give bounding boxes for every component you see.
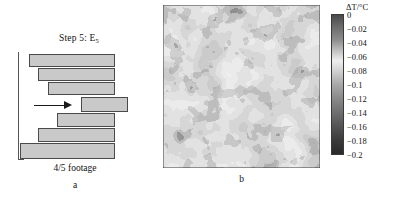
panel-b-heatmap [163, 5, 320, 168]
colorbar-tick: −0.1 [347, 81, 362, 90]
colorbar-tick: 0 [347, 11, 351, 20]
panel-a-footage-caption: 4/5 footage [0, 163, 150, 173]
panel-a-title-subscript: 5 [96, 37, 99, 44]
colorbar-tick: −0.12 [347, 95, 367, 104]
panel-a-letter-label: a [0, 180, 150, 190]
colorbar-tick-labels: 0 −0.02 −0.04 −0.06 −0.08 −0.1 −0.12 −0.… [347, 11, 393, 159]
staircase-bar [48, 82, 115, 95]
heatmap-image [163, 5, 320, 168]
colorbar-tick: −0.16 [347, 123, 367, 132]
staircase-bars-group [18, 52, 128, 160]
panel-a-excavation-diagram: Step 5: E5 4/5 footage a [0, 0, 158, 200]
axis-foot-tick [18, 159, 24, 160]
staircase-bar [57, 113, 115, 127]
colorbar-tick: −0.06 [347, 53, 367, 62]
arrow-shaft [34, 105, 66, 106]
arrow-head [64, 101, 72, 109]
heatmap-svg [163, 5, 320, 168]
colorbar-legend: ΔT/°C 0 −0.02 −0.04 −0.06 −0.08 −0.1 −0.… [331, 0, 393, 200]
staircase-bar [29, 54, 115, 67]
panel-a-title: Step 5: E5 [0, 33, 158, 44]
colorbar-tick: −0.08 [347, 67, 367, 76]
excavation-direction-arrow-icon [34, 101, 74, 110]
staircase-bar [20, 143, 115, 159]
panel-b-letter-label: b [163, 174, 320, 184]
vertical-axis-line [18, 52, 19, 160]
staircase-bar [38, 68, 115, 81]
colorbar-gradient [331, 14, 344, 155]
staircase-bar [38, 128, 115, 142]
colorbar-tick: −0.2 [347, 151, 362, 160]
colorbar-tick: −0.04 [347, 39, 367, 48]
staircase-bar-highlighted [81, 97, 128, 112]
colorbar-tick: −0.02 [347, 25, 367, 34]
panel-a-title-text: Step 5: E [59, 33, 96, 43]
colorbar-tick: −0.14 [347, 109, 367, 118]
colorbar-tick: −0.18 [347, 137, 367, 146]
